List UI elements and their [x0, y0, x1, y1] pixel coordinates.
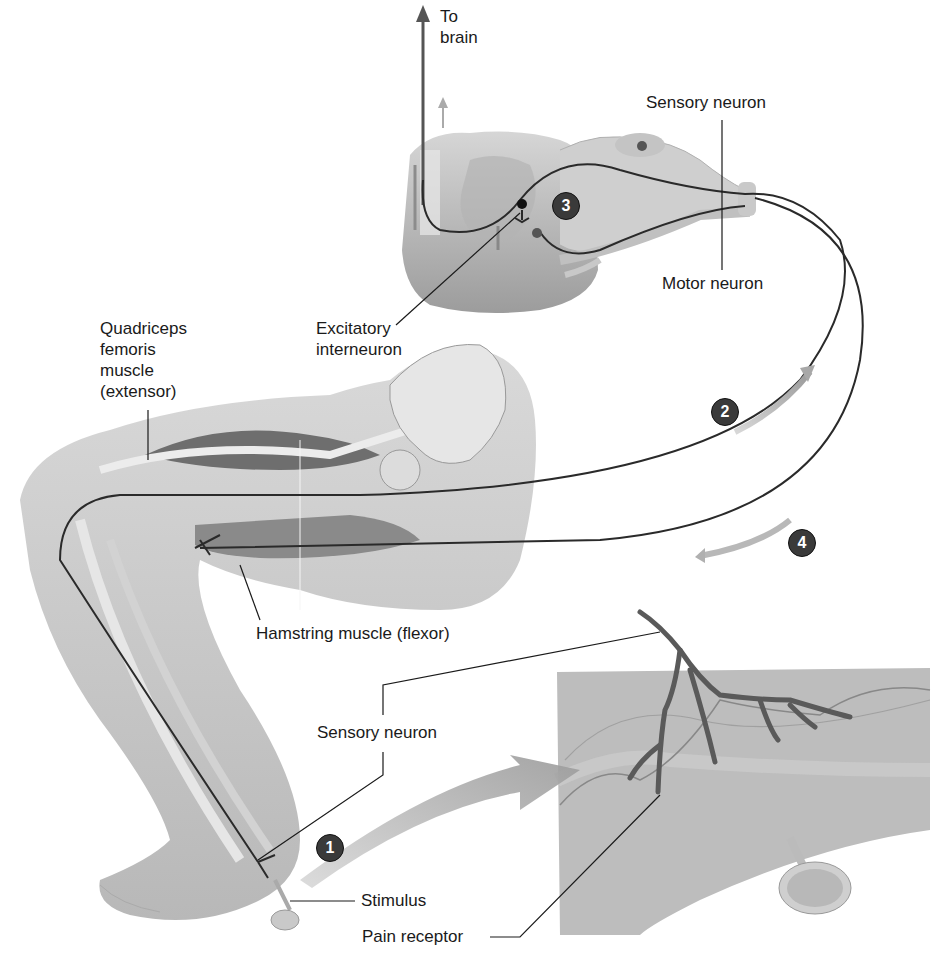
label-sensory-neuron-bottom: Sensory neuron: [317, 722, 437, 743]
efferent-flow-arrowhead: [695, 548, 705, 563]
label-sensory-neuron-top: Sensory neuron: [646, 92, 766, 113]
magnify-arrow: [300, 755, 580, 888]
step-badge-2: 2: [711, 398, 739, 426]
label-hamstring: Hamstring muscle (flexor): [256, 623, 450, 644]
skin-magnification-panel: [557, 612, 930, 935]
label-excitatory-interneuron: Excitatory interneuron: [316, 318, 402, 360]
label-quadriceps: Quadriceps femoris muscle (extensor): [100, 318, 187, 402]
nerve-roots: [560, 133, 756, 275]
efferent-flow-arrow: [700, 520, 790, 556]
afferent-flow-arrow: [735, 372, 810, 432]
label-motor-neuron: Motor neuron: [662, 273, 763, 294]
step-badge-3: 3: [552, 192, 580, 220]
step-badge-1: 1: [316, 834, 344, 862]
label-pain-receptor: Pain receptor: [362, 926, 463, 947]
reflex-arc-diagram: To brain Sensory neuron Motor neuron Exc…: [0, 0, 952, 970]
label-stimulus: Stimulus: [361, 890, 426, 911]
label-to-brain: To brain: [440, 6, 478, 48]
step-badge-4: 4: [788, 529, 816, 557]
